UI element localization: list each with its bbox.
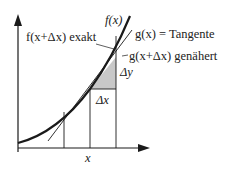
label-f-x: f(x) bbox=[105, 13, 122, 27]
label-g-x-dx-genaehert: g(x+Δx) genähert bbox=[129, 49, 218, 63]
label-g-x-tangente: g(x) = Tangente bbox=[135, 27, 215, 41]
y-axis-arrow-icon bbox=[14, 14, 22, 26]
label-f-x-dx-exakt: f(x+Δx) exakt bbox=[26, 30, 97, 44]
x-axis-arrow-icon bbox=[138, 144, 150, 152]
leader-line-exakt bbox=[96, 44, 114, 49]
derivative-tangent-diagram: f(x) f(x+Δx) exakt g(x) = Tangente g(x+Δ… bbox=[0, 0, 236, 169]
leader-line-genaehert bbox=[122, 55, 128, 56]
label-delta-x: Δx bbox=[95, 93, 109, 107]
label-x-axis: x bbox=[84, 151, 91, 165]
label-delta-y: Δy bbox=[119, 65, 133, 79]
